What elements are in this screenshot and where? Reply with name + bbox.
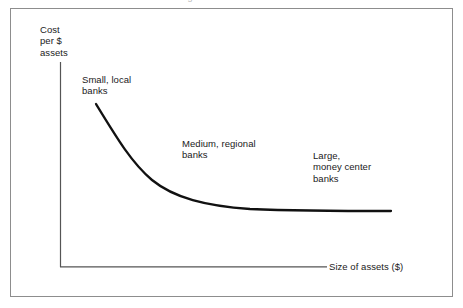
figure-root: Economies of Scale in Banking Cost per $… <box>0 0 463 308</box>
annotation-large-money-center-banks: Large, money center banks <box>313 150 371 184</box>
annotation-medium-regional-banks: Medium, regional banks <box>182 138 256 161</box>
x-axis-label: Size of assets ($) <box>329 261 403 272</box>
y-axis-label: Cost per $ assets <box>40 24 68 58</box>
annotation-small-local-banks: Small, local banks <box>82 74 131 97</box>
